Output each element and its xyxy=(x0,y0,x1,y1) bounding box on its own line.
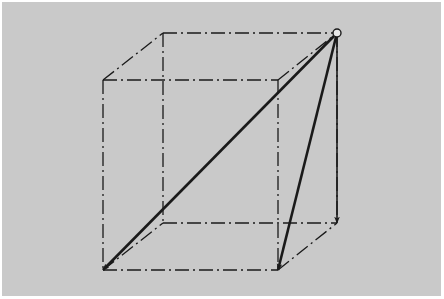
vector-arrows xyxy=(103,33,337,270)
space-diagonal-arrow xyxy=(103,33,337,270)
origin-circle-icon xyxy=(333,29,341,37)
connector-top-left xyxy=(103,33,163,80)
connector-bottom-left xyxy=(103,223,163,270)
face-diagonal-arrow xyxy=(278,33,337,270)
cube-vector-diagram xyxy=(0,0,444,299)
